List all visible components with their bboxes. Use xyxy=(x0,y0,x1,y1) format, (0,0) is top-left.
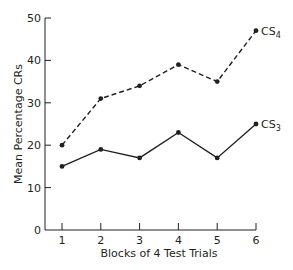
data-point xyxy=(60,143,65,148)
series-line xyxy=(62,124,256,166)
series-line xyxy=(62,31,256,145)
line-chart: 01020304050123456 CS4CS3 Mean Percentage… xyxy=(0,0,293,270)
series-label: CS4 xyxy=(261,25,281,40)
y-tick-label: 30 xyxy=(27,97,41,110)
data-point xyxy=(60,164,65,169)
y-axis-label: Mean Percentage CRs xyxy=(12,64,25,184)
data-point xyxy=(176,62,181,67)
y-tick-label: 20 xyxy=(27,139,41,152)
x-tick-label: 5 xyxy=(214,234,221,247)
x-axis-label: Blocks of 4 Test Trials xyxy=(101,247,218,260)
series-cs4: CS4 xyxy=(60,25,281,148)
x-tick-label: 1 xyxy=(59,234,66,247)
data-point xyxy=(176,130,181,135)
x-tick-label: 4 xyxy=(175,234,182,247)
y-tick-label: 40 xyxy=(27,54,41,67)
data-point xyxy=(215,156,220,161)
data-point xyxy=(137,156,142,161)
x-tick-label: 3 xyxy=(136,234,143,247)
data-point xyxy=(254,122,259,127)
y-tick-label: 50 xyxy=(27,12,41,25)
data-point xyxy=(98,147,103,152)
data-point xyxy=(98,96,103,101)
series-group: CS4CS3 xyxy=(60,25,281,169)
axes: 01020304050123456 xyxy=(27,12,260,247)
data-point xyxy=(137,83,142,88)
series-cs3: CS3 xyxy=(60,118,281,169)
x-tick-label: 6 xyxy=(253,234,260,247)
series-label: CS3 xyxy=(261,118,281,133)
data-point xyxy=(215,79,220,84)
x-tick-label: 2 xyxy=(97,234,104,247)
data-point xyxy=(254,28,259,33)
y-tick-label: 0 xyxy=(34,224,41,237)
y-tick-label: 10 xyxy=(27,182,41,195)
